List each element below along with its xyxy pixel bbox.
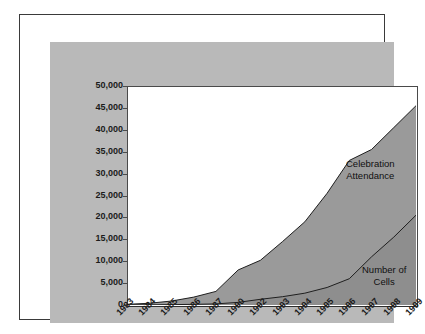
x-axis-tick-label: 1992 [248,297,269,318]
annotation-line-2: Cells [362,276,406,288]
x-axis-tick-label: 1983 [115,297,136,318]
annotation-number-of-cells: Number of Cells [362,264,406,288]
x-axis-tick-label: 1998 [382,297,403,318]
figure-frame: 50,00045,00040,00035,00030,00025,00020,0… [19,14,385,320]
x-axis-tick-label: 1987 [204,297,225,318]
x-axis-tick-label: 1993 [271,297,292,318]
chart-panel: 50,00045,00040,00035,00030,00025,00020,0… [50,42,394,323]
x-axis-tick-label: 1990 [226,297,247,318]
x-axis-tick-label: 1986 [182,297,203,318]
x-axis-tick-label: 1994 [293,297,314,318]
annotation-line-1: Celebration [346,158,395,170]
x-axis-tick-label: 1985 [159,297,180,318]
x-axis-tick-label: 1996 [337,297,358,318]
x-axis-tick-label: 1995 [315,297,336,318]
x-axis-tick-label: 1984 [137,297,158,318]
annotation-line-2: Attendance [346,170,395,182]
x-axis: 1983198419851986198719901992199319941995… [50,42,394,323]
annotation-line-1: Number of [362,264,406,276]
x-axis-tick-label: 1997 [360,297,381,318]
annotation-celebration-attendance: Celebration Attendance [346,158,395,182]
